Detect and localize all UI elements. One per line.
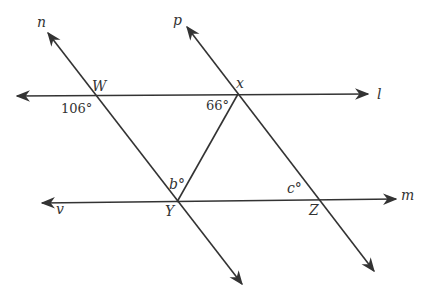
angle-label-w: 106° [61, 101, 92, 116]
label-line-l: l [377, 86, 381, 102]
label-point-w: W [92, 78, 108, 94]
label-line-v: v [56, 201, 64, 217]
geometry-diagram: n p l m v W x Y Z 106° 66° b° c° [0, 0, 427, 289]
label-line-m: m [401, 187, 414, 203]
line-l [17, 94, 368, 96]
label-line-n: n [37, 14, 46, 30]
line-m [42, 199, 396, 203]
label-point-z: Z [308, 202, 319, 218]
label-point-y: Y [165, 203, 176, 219]
label-point-x: x [236, 75, 244, 91]
angle-label-z: c° [287, 180, 302, 196]
angle-label-x: 66° [206, 98, 229, 113]
line-n [48, 33, 242, 284]
line-p [187, 27, 374, 271]
label-line-p: p [173, 12, 182, 28]
angle-label-y: b° [169, 176, 185, 192]
